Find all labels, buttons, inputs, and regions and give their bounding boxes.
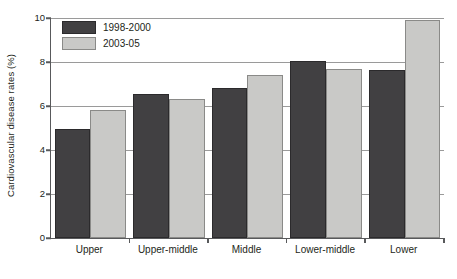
- bar: [55, 129, 91, 238]
- bar-group: [130, 18, 209, 238]
- bar-group: [287, 18, 366, 238]
- y-axis-tick-label: 4: [40, 145, 45, 155]
- cardiovascular-disease-bar-chart: Cardiovascular disease rates (%) 0246810…: [0, 0, 457, 279]
- x-axis-category-label: Lower: [390, 244, 417, 256]
- y-axis-tick-label: 2: [40, 189, 45, 199]
- legend-swatch: [62, 37, 96, 50]
- bar-group: [365, 18, 444, 238]
- bars-layer: [51, 18, 444, 238]
- bar: [290, 61, 326, 238]
- bar-group: [51, 18, 130, 238]
- x-axis-tick-mark: [129, 238, 131, 243]
- legend-entry: 1998-2000: [62, 21, 151, 34]
- y-axis-tick-label: 10: [34, 13, 45, 23]
- chart-legend: 1998-20002003-05: [62, 21, 151, 50]
- plot-area: 0246810: [50, 18, 444, 239]
- x-axis-tick-mark: [207, 238, 209, 243]
- x-axis-tick-mark: [443, 238, 445, 243]
- y-axis-tick-label: 8: [40, 57, 45, 67]
- legend-swatch: [62, 21, 96, 34]
- legend-entry: 2003-05: [62, 37, 151, 50]
- bar: [90, 110, 126, 238]
- legend-label: 2003-05: [103, 39, 140, 49]
- bar: [169, 99, 205, 238]
- legend-label: 1998-2000: [103, 23, 151, 33]
- y-axis-tick-label: 6: [40, 101, 45, 111]
- x-axis-category-label: Upper-middle: [138, 244, 198, 256]
- x-axis-category-labels: UpperUpper-middleMiddleLower-middleLower: [50, 244, 443, 260]
- y-axis-title-text: Cardiovascular disease rates (%): [6, 53, 17, 196]
- x-axis-tick-mark: [364, 238, 366, 243]
- bar: [369, 70, 405, 238]
- bar: [247, 75, 283, 238]
- bar: [212, 88, 248, 238]
- bar: [326, 69, 362, 238]
- bar: [405, 20, 441, 238]
- y-axis-tick-label: 0: [40, 233, 45, 243]
- x-axis-tick-mark: [286, 238, 288, 243]
- bar-group: [208, 18, 287, 238]
- x-axis-category-label: Lower-middle: [295, 244, 355, 256]
- x-axis-category-label: Middle: [232, 244, 261, 256]
- y-axis-title: Cardiovascular disease rates (%): [0, 0, 22, 250]
- x-axis-category-label: Upper: [76, 244, 103, 256]
- bar: [133, 94, 169, 238]
